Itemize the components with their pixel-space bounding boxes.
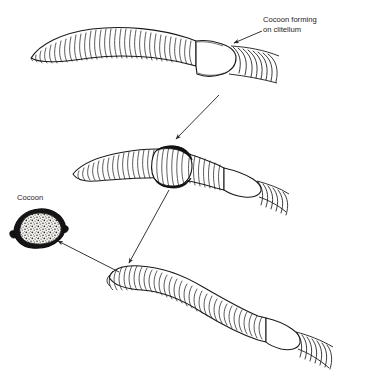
diagram-canvas: Cocoon forming on clitellum Cocoon [0, 0, 365, 380]
label-cocoon-forming-line2: on clitellum [263, 25, 301, 34]
worm2-dark-cocoon-ring [152, 146, 192, 188]
label-cocoon-text: Cocoon [17, 193, 43, 202]
label-cocoon: Cocoon [17, 193, 43, 202]
earthworm-cocoon-diagram: Cocoon forming on clitellum Cocoon [0, 0, 365, 380]
label-cocoon-forming-line1: Cocoon forming [263, 15, 317, 24]
